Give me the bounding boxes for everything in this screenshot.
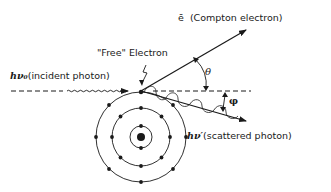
electron — [94, 135, 98, 139]
electron — [139, 146, 143, 150]
scattered-photon-label: hν′(scattered photon) — [187, 131, 292, 141]
incident-photon-label: hν₀(incident photon) — [10, 71, 110, 81]
electron — [168, 135, 172, 139]
electron — [119, 156, 123, 160]
electron — [139, 180, 143, 184]
free-electron — [139, 90, 143, 94]
compton-electron-symbol: ē — [178, 12, 184, 23]
electron — [110, 135, 114, 139]
electron — [107, 103, 111, 107]
free-electron-label: "Free" Electron — [97, 48, 168, 58]
electron — [107, 167, 111, 171]
compton-electron-label: ē (Compton electron) — [178, 13, 282, 23]
atom — [94, 90, 188, 184]
scattered-photon-symbol: hν′ — [187, 130, 203, 141]
incident-photon-path — [11, 90, 128, 92]
electron — [171, 167, 175, 171]
electron — [139, 164, 143, 168]
electron — [119, 115, 123, 119]
compton-electron-arrow — [141, 30, 246, 91]
compton-electron-text: (Compton electron) — [190, 12, 283, 23]
phi-label: φ — [229, 96, 238, 106]
diagram-canvas — [0, 0, 331, 192]
phi-angle-arc — [220, 92, 228, 112]
electron — [139, 106, 143, 110]
incident-photon-text: (incident photon) — [28, 70, 110, 81]
theta-label: θ — [205, 67, 211, 77]
nucleus — [137, 133, 145, 141]
scattered-photon-text: (scattered photon) — [203, 130, 292, 141]
electron — [171, 103, 175, 107]
electron — [160, 115, 164, 119]
electron — [139, 124, 143, 128]
compton-scattering-diagram: ē (Compton electron) "Free" Electron hν₀… — [0, 0, 331, 192]
electron — [160, 156, 164, 160]
incident-photon-symbol: hν₀ — [10, 70, 28, 81]
